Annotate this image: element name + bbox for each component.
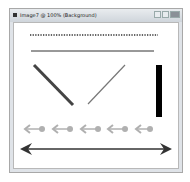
vertical-bar	[156, 65, 162, 117]
canvas-drawing	[0, 0, 190, 182]
arrow-2	[53, 125, 73, 133]
arrow-1	[25, 125, 45, 133]
double-arrow	[20, 143, 172, 155]
diagonal-line-thin	[88, 65, 125, 104]
arrow-5	[136, 125, 153, 133]
diagonal-line-thick	[34, 65, 73, 105]
arrow-3	[81, 125, 101, 133]
arrow-4	[108, 125, 128, 133]
arrow-row	[25, 125, 153, 133]
